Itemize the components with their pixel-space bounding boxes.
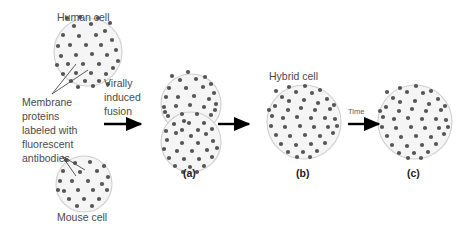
hybrid-cell-label: Hybrid cell: [269, 70, 318, 84]
panel-label-b: (b): [296, 167, 309, 179]
panel-label-c: (c): [407, 167, 420, 179]
fused-cell-panel-a: [161, 70, 221, 174]
cell-fusion-figure: Human cell Membrane proteins labeled wit…: [0, 0, 463, 227]
mouse-cell-label: Mouse cell: [57, 211, 107, 225]
panel-label-a: (a): [183, 167, 196, 179]
membrane-proteins-label: Membrane proteins labeled with fluoresce…: [22, 95, 77, 165]
time-label: Time: [348, 107, 364, 116]
hybrid-cell-panel-c: [378, 84, 452, 160]
human-cell-label: Human cell: [57, 11, 110, 25]
hybrid-cell-panel-b: [267, 84, 341, 159]
virally-induced-fusion-label: Virally induced fusion: [104, 76, 141, 118]
